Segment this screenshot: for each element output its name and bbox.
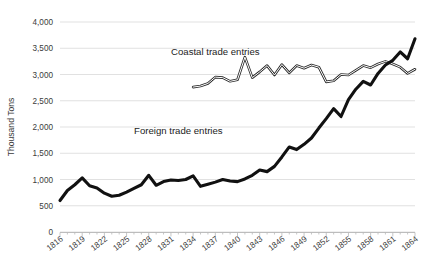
line-chart: 05001,0001,5002,0002,5003,0003,5004,000 … bbox=[0, 0, 428, 273]
x-axis-tick-label: 1849 bbox=[289, 234, 309, 253]
y-axis-tick-label: 4,000 bbox=[33, 18, 54, 27]
chart-container: 05001,0001,5002,0002,5003,0003,5004,000 … bbox=[0, 0, 428, 273]
series-annotation-label-0: Coastal trade entries bbox=[171, 46, 260, 57]
x-axis-tick-label: 1843 bbox=[245, 234, 265, 253]
x-axis-tick-label: 1858 bbox=[355, 234, 375, 253]
y-axis-tick-label: 1,000 bbox=[33, 176, 54, 185]
y-axis-tick-labels: 05001,0001,5002,0002,5003,0003,5004,000 bbox=[33, 18, 54, 237]
series-annotation-label-1: Foreign trade entries bbox=[134, 125, 223, 136]
x-axis-tick-label: 1855 bbox=[333, 234, 353, 253]
x-axis-tick-labels: 1816181918221825182818311834183718401843… bbox=[45, 234, 420, 253]
x-axis-tick-label: 1822 bbox=[89, 234, 109, 253]
series-group bbox=[60, 39, 415, 201]
y-axis-tick-label: 2,000 bbox=[33, 123, 54, 132]
x-axis-tick-label: 1852 bbox=[311, 234, 331, 253]
y-axis-title: Thousand Tons bbox=[6, 98, 16, 157]
y-axis-tick-label: 2,500 bbox=[33, 97, 54, 106]
x-axis-tick-label: 1819 bbox=[67, 234, 87, 253]
x-axis-tick-label: 1834 bbox=[178, 234, 198, 253]
series-line-coastal-trade-entries bbox=[193, 57, 415, 87]
x-axis-tick-label: 1837 bbox=[200, 234, 220, 253]
y-axis-tick-label: 3,000 bbox=[33, 71, 54, 80]
series-annotations-group: Coastal trade entriesForeign trade entri… bbox=[134, 46, 260, 136]
x-axis-tick-label: 1864 bbox=[400, 234, 420, 253]
series-line-foreign-trade-entries bbox=[60, 39, 415, 201]
y-axis-tick-label: 0 bbox=[48, 228, 53, 237]
y-axis-tick-label: 3,500 bbox=[33, 44, 54, 53]
y-axis-tick-label: 500 bbox=[39, 202, 53, 211]
x-axis-tick-label: 1861 bbox=[378, 234, 398, 253]
x-axis-tick-label: 1831 bbox=[156, 234, 176, 253]
x-axis-tick-label: 1828 bbox=[134, 234, 154, 253]
x-axis-tick-label: 1846 bbox=[267, 234, 287, 253]
y-axis-tick-label: 1,500 bbox=[33, 149, 54, 158]
x-axis-tick-label: 1840 bbox=[222, 234, 242, 253]
x-axis-tick-label: 1825 bbox=[111, 234, 131, 253]
